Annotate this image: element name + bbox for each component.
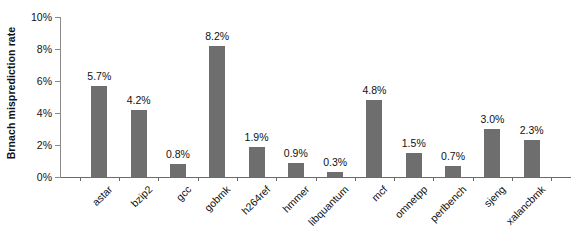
bar-value-label: 2.3% <box>520 124 544 136</box>
x-axis-category-label-text: mcf <box>369 183 389 203</box>
x-axis-category-label-text: gcc <box>173 183 193 203</box>
bar-slot: 1.9% <box>237 17 276 177</box>
x-axis-category-label-text: h264ref <box>238 183 272 217</box>
bar-slot: 8.2% <box>198 17 237 177</box>
x-axis-category-label-text: gobmk <box>202 183 233 214</box>
bar[interactable] <box>406 153 422 177</box>
bar-value-label: 3.0% <box>480 113 504 125</box>
bar-slot: 0.7% <box>433 17 472 177</box>
bar-slot: 0.9% <box>276 17 315 177</box>
bar-slot: 0.3% <box>316 17 355 177</box>
x-axis-category-label-text: bzip2 <box>128 183 154 209</box>
y-axis-tick-label: 10% <box>31 11 52 23</box>
bar-value-label: 1.9% <box>245 131 269 143</box>
y-axis-line <box>60 17 61 177</box>
bar-value-label: 4.8% <box>362 84 386 96</box>
y-axis-tick-label: 4% <box>37 107 52 119</box>
y-axis-tick-mark <box>55 49 61 50</box>
y-axis-tick-mark <box>55 17 61 18</box>
bar-value-label: 4.2% <box>127 94 151 106</box>
x-axis-tick-mark <box>80 177 81 181</box>
y-axis-tick-mark <box>55 81 61 82</box>
y-axis-tick-label: 6% <box>37 75 52 87</box>
bar-slot: 4.2% <box>119 17 158 177</box>
y-axis-title-label: Brnach misprediction rate <box>5 26 17 159</box>
x-axis-category-label-text: perlbench <box>427 183 468 224</box>
bar[interactable] <box>91 86 107 177</box>
bar-slot: 0.8% <box>158 17 197 177</box>
bar-value-label: 1.5% <box>402 137 426 149</box>
bar-value-label: 0.9% <box>284 147 308 159</box>
x-axis-category-label-text: xalancbmk <box>503 183 547 227</box>
bar-slot: 1.5% <box>394 17 433 177</box>
bar[interactable] <box>131 110 147 177</box>
bar-value-label: 8.2% <box>205 30 229 42</box>
x-axis-category-label-text: hmmer <box>280 183 312 215</box>
bar-slot: 2.3% <box>512 17 551 177</box>
bar-slot: 5.7% <box>80 17 119 177</box>
x-axis-category-label-text: omnetpp <box>392 183 429 220</box>
y-axis-tick-mark <box>55 177 61 178</box>
x-axis-category-label-text: sjeng <box>482 183 508 209</box>
bar[interactable] <box>170 164 186 177</box>
x-axis-category-label-text: astar <box>90 183 115 208</box>
y-axis-tick-label: 0% <box>37 171 52 183</box>
y-axis-tick-label: 2% <box>37 139 52 151</box>
bar[interactable] <box>209 46 225 177</box>
y-axis-tick-mark <box>55 113 61 114</box>
y-axis-title: Brnach misprediction rate <box>0 0 22 185</box>
bar-value-label: 5.7% <box>87 70 111 82</box>
bar-value-label: 0.8% <box>166 148 190 160</box>
bar[interactable] <box>524 140 540 177</box>
bar-chart: Brnach misprediction rate 0%2%4%6%8%10% … <box>0 0 581 243</box>
y-axis-tick-label: 8% <box>37 43 52 55</box>
y-axis-tick-mark <box>55 145 61 146</box>
